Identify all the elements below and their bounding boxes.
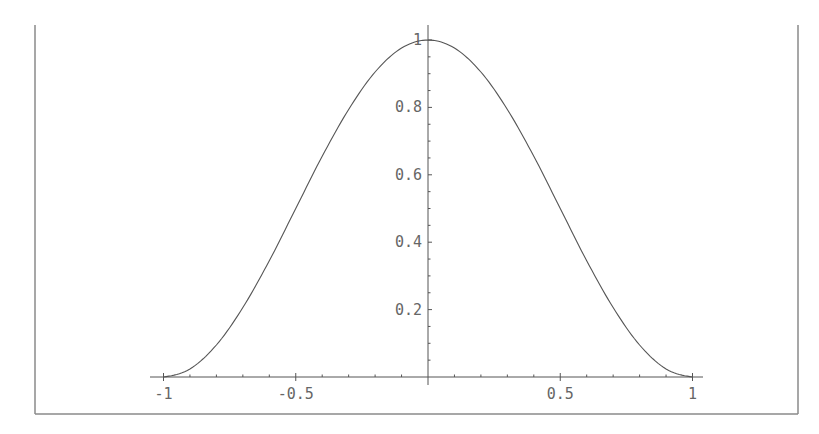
y-tick-label: 0.6: [395, 166, 422, 184]
y-tick-label: 0.4: [395, 233, 422, 251]
x-tick-label: -1: [154, 385, 172, 403]
plot-canvas: -1-0.50.51 0.20.40.60.81: [0, 0, 819, 434]
y-tick-label: 0.8: [395, 98, 422, 116]
x-tick-label: -0.5: [278, 385, 314, 403]
y-axis: 0.20.40.60.81: [395, 25, 432, 385]
y-tick-label: 0.2: [395, 301, 422, 319]
plot-frame: [35, 25, 798, 414]
x-tick-label: 1: [688, 385, 697, 403]
x-tick-label: 0.5: [547, 385, 574, 403]
x-axis: -1-0.50.51: [150, 373, 703, 403]
y-tick-label: 1: [413, 31, 422, 49]
